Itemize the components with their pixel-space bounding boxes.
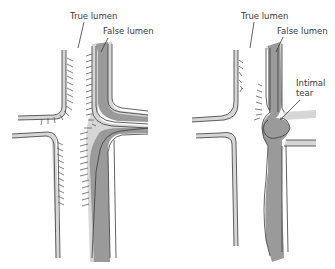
left-vessel-false-lumen <box>86 42 148 262</box>
leader-true-lumen-right <box>250 22 254 48</box>
label-intimal-tear-line1: Intimal <box>296 78 325 88</box>
aortic-dissection-diagram: True lumen False lumen <box>0 0 335 269</box>
label-intimal-tear-line2: tear <box>296 88 314 98</box>
left-vessel-left-wall <box>12 50 66 258</box>
label-false-lumen-right: False lumen <box>277 26 328 36</box>
left-panel: True lumen False lumen <box>12 11 154 262</box>
label-true-lumen-right: True lumen <box>240 11 288 21</box>
right-panel: True lumen False lumen Intimal tear <box>192 11 328 262</box>
label-true-lumen-left: True lumen <box>69 11 117 21</box>
right-vessel-false-lumen <box>262 42 316 262</box>
leader-true-lumen-left <box>78 22 84 48</box>
right-wall-hatching <box>239 60 262 120</box>
label-false-lumen-left: False lumen <box>103 26 154 36</box>
right-vessel-left-wall <box>192 50 238 246</box>
